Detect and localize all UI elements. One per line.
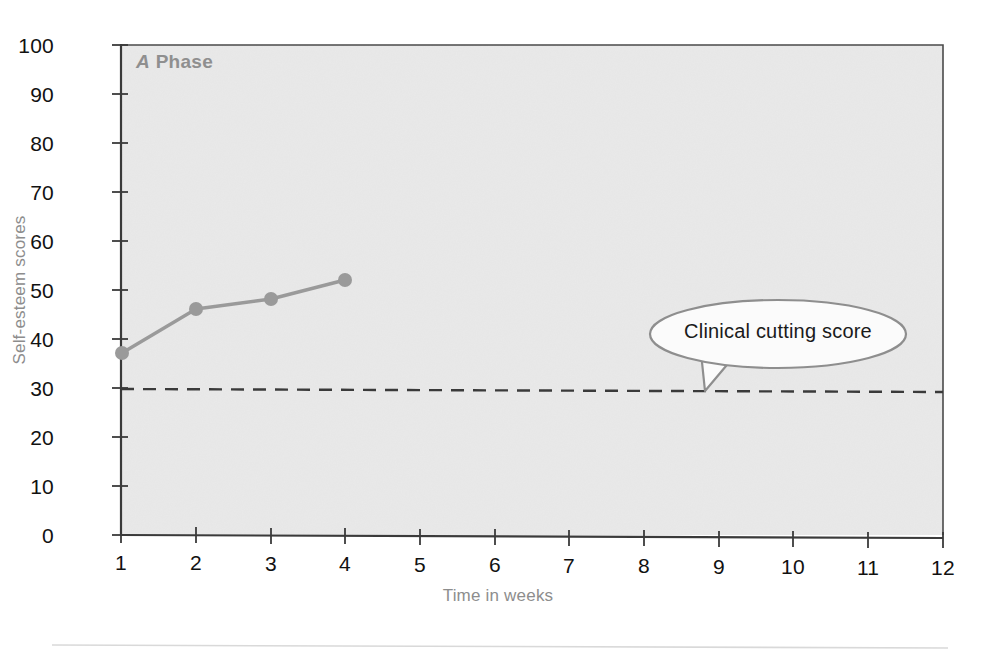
x-axis-title: Time in weeks: [0, 586, 996, 606]
x-tick-label: 11: [838, 557, 898, 578]
phase-label: A Phase: [136, 51, 213, 73]
x-tick-label: 12: [913, 557, 973, 578]
x-tick-label: 9: [689, 556, 749, 577]
y-tick-label: 10: [0, 476, 54, 497]
y-tick-label: 30: [0, 378, 54, 399]
callout-label: Clinical cutting score: [650, 320, 906, 343]
phase-label-letter: A: [136, 51, 150, 72]
x-tick-label: 1: [91, 552, 151, 573]
y-tick-label: 90: [0, 84, 54, 105]
data-point: [189, 302, 203, 316]
y-axis-title: Self-esteem scores: [10, 215, 30, 364]
x-tick-label: 6: [465, 554, 525, 575]
x-tick-label: 10: [763, 556, 823, 577]
phase-label-word: Phase: [156, 51, 213, 72]
data-point: [338, 273, 352, 287]
x-tick-label: 3: [241, 553, 301, 574]
x-axis-line: [120, 535, 943, 538]
data-point: [115, 346, 129, 360]
x-tick-label: 7: [539, 555, 599, 576]
plot-area-texture: [121, 45, 943, 535]
y-tick-label: 0: [0, 525, 54, 546]
x-tick-label: 5: [390, 554, 450, 575]
chart-figure: 0 10 20 30 40 50 60 70 80 90 100 1 2 3 4…: [0, 0, 996, 655]
footer-rule: [52, 645, 948, 648]
y-tick-label: 20: [0, 427, 54, 448]
data-point: [264, 292, 278, 306]
y-tick-label: 80: [0, 133, 54, 154]
x-tick-label: 2: [166, 552, 226, 573]
y-tick-label: 100: [0, 35, 54, 56]
y-tick-label: 70: [0, 182, 54, 203]
x-tick-label: 8: [614, 555, 674, 576]
x-tick-label: 4: [315, 553, 375, 574]
